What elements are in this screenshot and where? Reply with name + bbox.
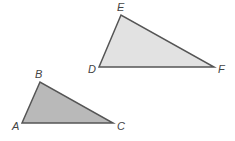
triangles-diagram: D E F A B C: [0, 0, 235, 141]
vertex-label-c: C: [117, 120, 125, 132]
triangle-def: [99, 15, 214, 67]
vertex-label-f: F: [218, 63, 226, 75]
vertex-label-b: B: [35, 68, 42, 80]
vertex-label-d: D: [88, 63, 96, 75]
triangle-abc: [22, 82, 113, 123]
vertex-label-e: E: [117, 1, 125, 13]
vertex-label-a: A: [11, 120, 19, 132]
